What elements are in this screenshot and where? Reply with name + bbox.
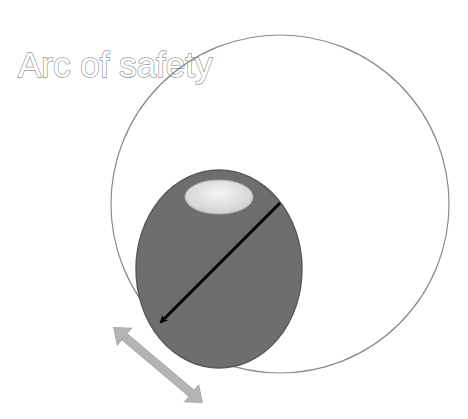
head-highlight: [185, 180, 253, 214]
arc-of-safety-diagram: Arc of safety: [0, 0, 468, 419]
